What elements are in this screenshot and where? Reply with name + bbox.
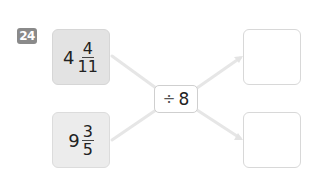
- mixed-number: 4 4 11: [63, 40, 99, 75]
- mixed-number: 9 3 5: [68, 123, 94, 158]
- operator-box: ÷ 8: [154, 85, 198, 113]
- numerator: 4: [82, 40, 94, 58]
- input-box-top: 4 4 11: [52, 29, 110, 85]
- operand: 8: [178, 89, 189, 109]
- whole-part: 4: [63, 47, 74, 68]
- connector-top-left: [112, 56, 156, 88]
- answer-box-bottom[interactable]: [243, 112, 301, 168]
- denominator: 11: [77, 58, 99, 75]
- connector-bottom-right: [197, 110, 240, 138]
- divide-icon: ÷: [163, 90, 176, 108]
- connector-top-right: [197, 58, 240, 88]
- fraction: 3 5: [82, 123, 94, 158]
- answer-box-top[interactable]: [243, 29, 301, 85]
- connector-bottom-left: [112, 110, 156, 140]
- denominator: 5: [82, 141, 94, 158]
- whole-part: 9: [68, 130, 79, 151]
- numerator: 3: [82, 123, 94, 141]
- fraction: 4 11: [77, 40, 99, 75]
- arrowheads: [234, 56, 243, 140]
- input-box-bottom: 9 3 5: [52, 112, 110, 168]
